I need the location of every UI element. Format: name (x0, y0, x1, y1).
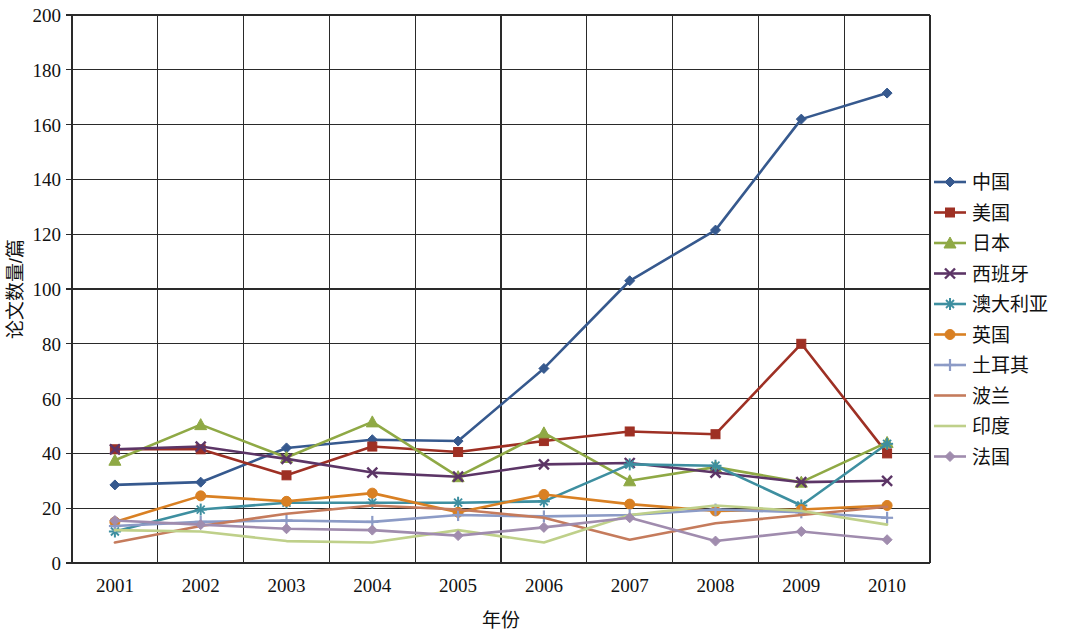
legend-item-5: 英国 (934, 325, 1010, 346)
y-axis-tick-label: 160 (33, 115, 62, 136)
data-point-marker (282, 524, 292, 534)
data-point-marker (282, 471, 291, 480)
data-point-marker (882, 535, 892, 545)
line-chart: 020406080100120140160180200 200120022003… (0, 0, 1078, 633)
legend-item-8: 印度 (934, 416, 1010, 437)
data-point-marker (625, 427, 634, 436)
data-point-marker (625, 499, 635, 509)
data-point-marker (881, 512, 893, 524)
data-point-marker (711, 430, 720, 439)
data-point-marker (711, 536, 721, 546)
data-point-marker (539, 522, 549, 532)
x-axis-tick-label: 2004 (353, 575, 392, 596)
data-point-marker (195, 504, 207, 516)
y-axis-tick-label: 80 (42, 334, 61, 355)
legend-label: 中国 (972, 172, 1010, 193)
x-axis-tick-labels: 2001200220032004200520062007200820092010 (96, 575, 906, 596)
y-axis-tick-label: 20 (42, 498, 61, 519)
y-axis-tick-label: 140 (33, 169, 62, 190)
data-point-marker (368, 442, 377, 451)
data-point-marker (195, 419, 207, 430)
y-axis-tick-label: 0 (52, 553, 62, 574)
y-axis-tick-label: 120 (33, 224, 62, 245)
legend-item-7: 波兰 (934, 386, 1010, 407)
legend-item-6: 土耳其 (934, 355, 1029, 376)
chart-canvas: 020406080100120140160180200 200120022003… (0, 0, 1078, 633)
legend-label: 波兰 (972, 386, 1010, 407)
data-point-marker (454, 448, 463, 457)
y-axis-tick-labels: 020406080100120140160180200 (33, 5, 62, 574)
data-point-marker (882, 88, 892, 98)
data-point-marker (196, 477, 206, 487)
y-axis-title: 论文数量/篇 (5, 239, 26, 339)
data-point-marker (945, 177, 955, 187)
data-point-marker (944, 359, 956, 371)
data-point-marker (797, 339, 806, 348)
legend-item-1: 美国 (934, 203, 1010, 224)
data-point-marker (196, 491, 206, 501)
legend-item-3: 西班牙 (934, 264, 1029, 285)
data-point-marker (796, 526, 806, 536)
data-point-marker (538, 427, 550, 438)
legend-label: 英国 (972, 325, 1010, 346)
data-point-marker (453, 531, 463, 541)
legend-item-4: 澳大利亚 (934, 294, 1048, 315)
data-point-marker (367, 488, 377, 498)
x-axis-title: 年份 (482, 610, 520, 631)
chart-legend: 中国美国日本西班牙澳大利亚英国土耳其波兰印度法国 (934, 172, 1048, 468)
x-axis-tick-label: 2006 (525, 575, 563, 596)
data-point-marker (282, 496, 292, 506)
data-point-marker (945, 330, 955, 340)
y-axis-tick-label: 40 (42, 443, 61, 464)
y-axis-tick-label: 60 (42, 389, 61, 410)
legend-label: 西班牙 (972, 264, 1029, 285)
x-axis-tick-label: 2008 (697, 575, 735, 596)
x-axis-tick-label: 2005 (439, 575, 477, 596)
data-point-marker (366, 416, 378, 427)
data-point-marker (367, 525, 377, 535)
data-point-marker (946, 208, 955, 217)
data-point-marker (882, 500, 892, 510)
legend-item-0: 中国 (934, 172, 1010, 193)
legend-label: 澳大利亚 (972, 294, 1048, 315)
axis-titles: 论文数量/篇年份 (5, 239, 520, 631)
data-point-marker (944, 298, 956, 310)
legend-label: 法国 (972, 447, 1010, 468)
data-point-marker (945, 452, 955, 462)
x-axis-tick-label: 2010 (868, 575, 906, 596)
legend-label: 美国 (972, 203, 1010, 224)
x-axis-tick-label: 2001 (96, 575, 134, 596)
x-axis-tick-label: 2002 (182, 575, 220, 596)
legend-label: 印度 (972, 416, 1010, 437)
y-axis-tick-label: 180 (33, 60, 62, 81)
data-point-marker (110, 480, 120, 490)
data-point-marker (883, 449, 892, 458)
legend-item-2: 日本 (934, 233, 1010, 254)
legend-label: 土耳其 (972, 355, 1029, 376)
legend-label: 日本 (972, 233, 1010, 254)
data-point-marker (539, 490, 549, 500)
x-axis-tick-label: 2003 (268, 575, 306, 596)
x-axis-tick-label: 2009 (782, 575, 820, 596)
y-axis-tick-label: 200 (33, 5, 62, 26)
legend-item-9: 法国 (934, 447, 1010, 468)
y-axis-tick-label: 100 (33, 279, 62, 300)
x-axis-tick-label: 2007 (611, 575, 649, 596)
